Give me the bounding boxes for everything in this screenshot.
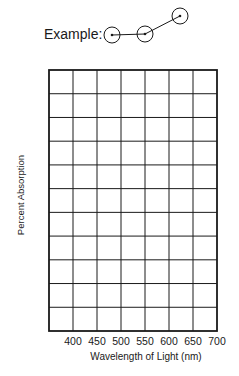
x-tick-450: 450 [88, 335, 106, 347]
x-tick-500: 500 [112, 335, 130, 347]
graph-grid [0, 0, 239, 376]
x-axis-label: Wavelength of Light (nm) [90, 351, 201, 362]
x-tick-600: 600 [160, 335, 178, 347]
x-tick-650: 650 [184, 335, 202, 347]
x-tick-550: 550 [136, 335, 154, 347]
y-axis-label: Percent Absorption [15, 155, 26, 235]
x-tick-400: 400 [64, 335, 82, 347]
x-tick-700: 700 [208, 335, 226, 347]
